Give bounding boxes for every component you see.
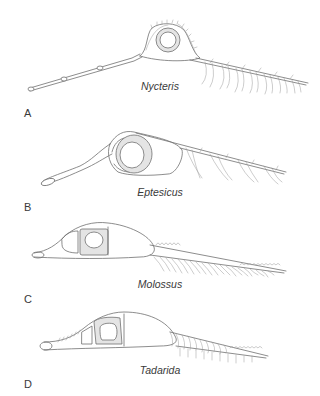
molossus-hair-drawing	[0, 205, 320, 285]
panel-c: Molossus C	[0, 205, 320, 300]
panel-letter: D	[24, 378, 32, 390]
panel-b: Eptesicus B	[0, 100, 320, 210]
species-label: Eptesicus	[0, 186, 320, 198]
species-label: Tadarida	[0, 364, 320, 376]
tadarida-hair-drawing	[0, 292, 320, 372]
species-label: Molossus	[0, 278, 320, 290]
eptesicus-hair-drawing	[0, 100, 320, 200]
species-label: Nycteris	[0, 80, 320, 92]
panel-d: Tadarida D	[0, 292, 320, 396]
